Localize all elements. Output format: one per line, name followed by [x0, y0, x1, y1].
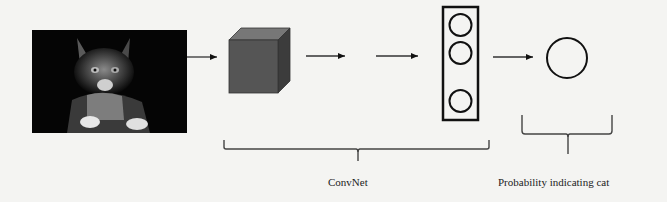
probability-brace-icon	[522, 115, 612, 154]
neuron-circle-icon	[450, 42, 472, 64]
probability-label: Probability indicating cat	[498, 176, 609, 188]
neuron-circle-icon	[450, 90, 472, 112]
fc-layer-box	[443, 7, 478, 120]
convnet-brace-icon	[224, 140, 489, 161]
output-neuron-circle-icon	[547, 38, 587, 78]
conv-volume-cube-icon	[229, 28, 290, 93]
convnet-label: ConvNet	[328, 176, 368, 188]
neuron-circle-icon	[450, 14, 472, 36]
